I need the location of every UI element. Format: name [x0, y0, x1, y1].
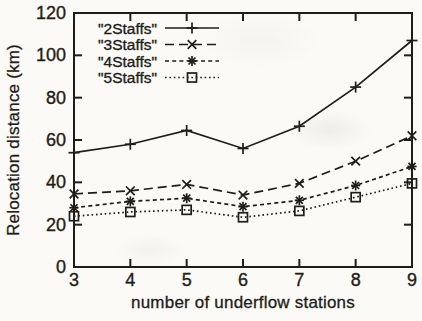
plus-marker: [181, 125, 192, 136]
legend-item: "3Staffs": [98, 36, 219, 53]
series-markers-1: [70, 131, 417, 199]
asterisk-marker: [295, 195, 304, 205]
x-tick-label: 7: [294, 270, 304, 290]
series-markers-2: [69, 161, 416, 212]
y-tick-label: 80: [46, 88, 66, 108]
y-tick-label: 60: [46, 130, 66, 150]
line-chart: 3456789020406080100120"2Staffs""3Staffs"…: [0, 0, 422, 321]
asterisk-marker: [238, 202, 247, 212]
legend-label: "4Staffs": [98, 53, 157, 70]
asterisk-marker: [351, 181, 360, 191]
y-axis-title: Relocation distance (km): [4, 44, 24, 236]
legend-marker: [187, 56, 196, 66]
y-tick-label: 120: [36, 3, 66, 23]
y-tick-label: 0: [56, 257, 66, 277]
x-tick-label: 8: [351, 270, 361, 290]
x-tick-label: 3: [69, 270, 79, 290]
asterisk-marker: [126, 196, 135, 206]
legend-item: "5Staffs": [98, 69, 219, 86]
chart-figure: 3456789020406080100120"2Staffs""3Staffs"…: [0, 0, 422, 321]
x-tick-label: 5: [182, 270, 192, 290]
series-line-2: [74, 166, 412, 207]
plus-marker: [69, 147, 80, 158]
legend-label: "5Staffs": [98, 69, 157, 86]
asterisk-marker: [182, 193, 191, 203]
legend-label: "2Staffs": [98, 20, 157, 37]
legend-item: "4Staffs": [98, 53, 219, 70]
x-marker: [351, 157, 360, 166]
y-tick-label: 100: [36, 45, 66, 65]
legend-label: "3Staffs": [98, 36, 157, 53]
legend: "2Staffs""3Staffs""4Staffs""5Staffs": [98, 20, 219, 87]
legend-item: "2Staffs": [98, 20, 219, 37]
asterisk-marker: [407, 161, 416, 171]
plus-marker: [238, 143, 249, 154]
x-tick-label: 6: [238, 270, 248, 290]
legend-marker: [187, 23, 198, 34]
y-tick-label: 20: [46, 215, 66, 235]
plus-marker: [125, 139, 136, 150]
x-axis-title: number of underflow stations: [131, 293, 355, 313]
x-tick-label: 9: [407, 270, 417, 290]
plus-marker: [294, 121, 305, 132]
series-markers-3: [70, 179, 417, 222]
y-tick-label: 40: [46, 172, 66, 192]
x-tick-label: 4: [125, 270, 135, 290]
